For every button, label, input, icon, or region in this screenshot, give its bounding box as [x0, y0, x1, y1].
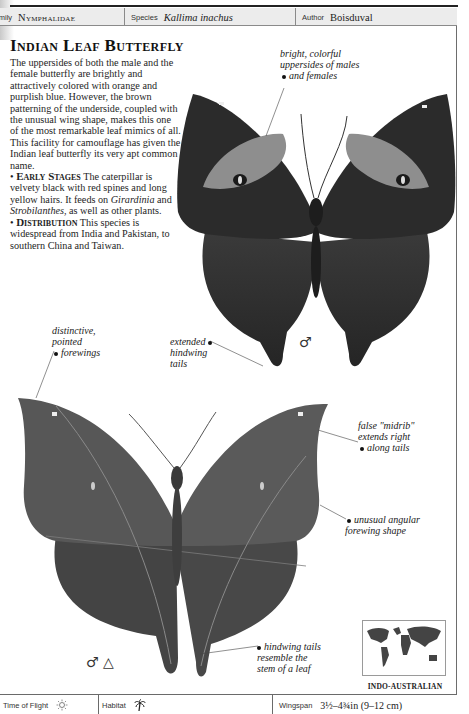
annotation-line: along tails — [367, 442, 410, 453]
habitat-label: Habitat — [102, 701, 126, 710]
region-label: INDO-AUSTRALIAN — [360, 682, 450, 691]
annotation-midrib: false "midrib" extends right along tails — [358, 420, 414, 453]
annotation-line: and females — [289, 70, 337, 81]
species-header: Family Nymphalidae Species Kallima inach… — [0, 8, 457, 26]
annotation-line: pointed — [52, 336, 100, 347]
wingspan-cell: Wingspan 3½–4¾in (9–12 cm) — [273, 695, 457, 714]
distribution-paragraph: • Distribution This species is widesprea… — [10, 217, 182, 251]
species-value: Kallima inachus — [164, 12, 233, 23]
species-label: Species — [131, 13, 158, 22]
annotation-angular: unusual angular forewing shape — [345, 514, 420, 536]
field-guide-page: Family Nymphalidae Species Kallima inach… — [0, 0, 469, 714]
annotation-line: bright, colorful — [280, 48, 359, 59]
sun-icon — [56, 699, 68, 711]
page-title: Indian Leaf Butterfly — [10, 36, 184, 56]
time-of-flight-cell: Time of Flight — [0, 695, 99, 714]
leader-dot — [282, 75, 286, 79]
early-stages-heading: Early Stages — [16, 170, 81, 182]
annotation-line: false "midrib" — [358, 420, 414, 431]
distribution-heading: Distribution — [16, 216, 77, 228]
annotation-line: resemble the — [257, 652, 321, 663]
annotation-line: forewings — [61, 347, 100, 358]
leader-dot — [360, 447, 364, 451]
annotation-line: stem of a leaf — [257, 663, 321, 674]
annotation-line: hindwing — [170, 347, 215, 358]
annotation-line: tails — [170, 358, 215, 369]
early-stages-paragraph: • Early Stages The caterpillar is velvet… — [10, 171, 182, 217]
distribution-map — [362, 620, 446, 676]
annotation-forewings: distinctive, pointed forewings — [52, 325, 100, 358]
palm-tree-icon — [134, 699, 146, 711]
habitat-cell: Habitat — [99, 695, 273, 714]
annotation-stem: hindwing tails resemble the stem of a le… — [257, 641, 321, 674]
early-stages-text-end: , as well as other plants. — [64, 205, 162, 216]
annotation-line: extends right — [358, 431, 414, 442]
wingspan-value: 3½–4¾in (9–12 cm) — [320, 700, 402, 711]
wingspan-label: Wingspan — [279, 701, 312, 710]
male-female-symbol: ♂ △ — [86, 654, 114, 670]
intro-paragraph: The uppersides of both the male and the … — [10, 57, 182, 171]
species-cell: Species Kallima inachus — [125, 8, 296, 26]
description-text: The uppersides of both the male and the … — [10, 57, 182, 251]
annotation-upperside: bright, colorful uppersides of males and… — [280, 48, 359, 81]
author-cell: Author Boisduval — [296, 8, 457, 26]
annotation-line: distinctive, — [52, 325, 100, 336]
annotation-line: forewing shape — [345, 525, 420, 536]
time-of-flight-label: Time of Flight — [3, 701, 48, 710]
annotation-line: hindwing tails — [264, 641, 321, 652]
leader-dot — [257, 646, 261, 650]
author-label: Author — [302, 13, 324, 22]
family-value: Nymphalidae — [18, 12, 75, 23]
leader-dot — [54, 352, 58, 356]
conjunction: and — [155, 194, 172, 205]
annotation-tails: extended hindwing tails — [170, 336, 215, 369]
plant-name: Girardinia — [111, 194, 155, 205]
butterfly-underside-illustration — [16, 396, 336, 680]
species-footer: Time of Flight Habitat Wingspan 3½–4¾in … — [0, 694, 457, 714]
leader-dot — [347, 519, 351, 523]
annotation-line: extended — [170, 336, 206, 347]
annotation-line: unusual angular — [354, 514, 420, 525]
family-cell: Family Nymphalidae — [0, 8, 125, 26]
family-label: Family — [0, 13, 12, 22]
male-symbol: ♂ — [299, 334, 312, 350]
butterfly-upperside-illustration — [175, 92, 457, 372]
author-value: Boisduval — [330, 12, 373, 23]
plant-name: Strobilanthes — [10, 205, 64, 216]
top-rule — [10, 5, 458, 7]
annotation-line: uppersides of males — [280, 59, 359, 70]
leader-dot — [208, 341, 212, 345]
world-map-icon — [363, 621, 445, 675]
